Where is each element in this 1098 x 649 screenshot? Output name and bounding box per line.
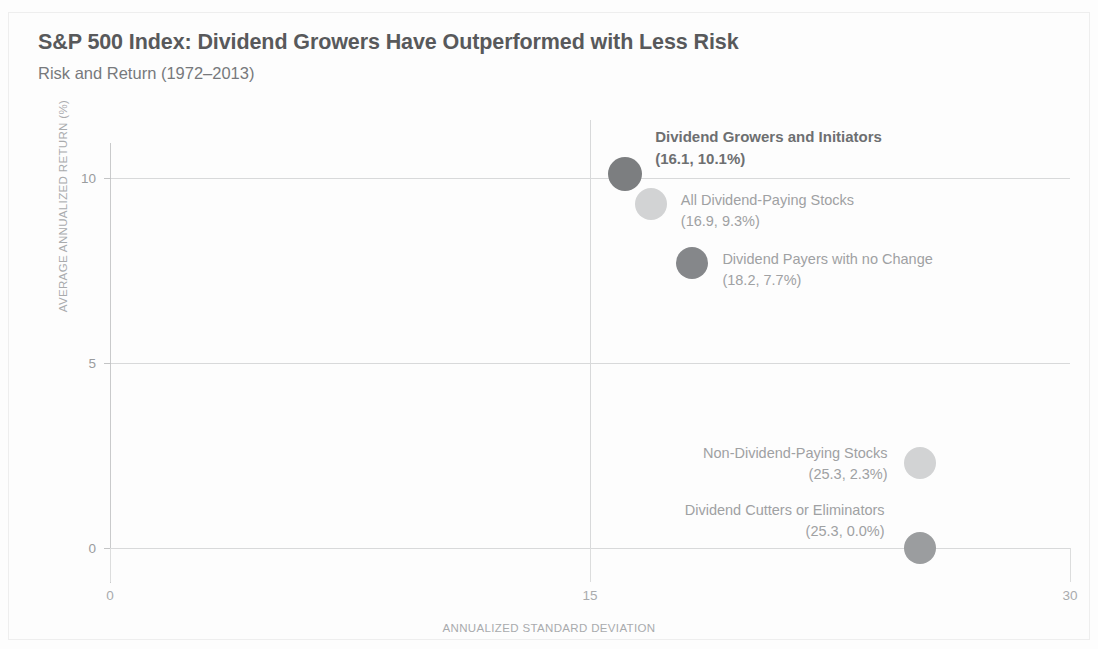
scatter-point	[635, 188, 667, 220]
point-annotation: Non-Dividend-Paying Stocks(25.3, 2.3%)	[703, 443, 888, 485]
y-tick-label: 5	[56, 356, 96, 371]
x-axis-title: ANNUALIZED STANDARD DEVIATION	[0, 622, 1098, 634]
x-tick-mark	[590, 548, 591, 582]
point-annotation: Dividend Growers and Initiators(16.1, 10…	[655, 126, 882, 170]
scatter-point	[676, 247, 708, 279]
scatter-point	[904, 532, 936, 564]
y-tick-label: 10	[56, 171, 96, 186]
x-tick-mark	[1070, 548, 1071, 582]
point-annotation-value: (18.2, 7.7%)	[722, 270, 932, 291]
point-annotation-value: (25.3, 2.3%)	[703, 464, 888, 485]
y-tick-mark	[104, 363, 111, 364]
x-tick-label: 30	[1062, 588, 1077, 603]
y-tick-label: 0	[56, 541, 96, 556]
point-annotation: Dividend Payers with no Change(18.2, 7.7…	[722, 249, 932, 291]
x-tick-mark	[110, 548, 111, 582]
point-annotation: Dividend Cutters or Eliminators(25.3, 0.…	[685, 500, 885, 542]
point-annotation-label: Dividend Cutters or Eliminators	[685, 502, 885, 518]
page-title: S&P 500 Index: Dividend Growers Have Out…	[38, 30, 739, 55]
chart-figure: S&P 500 Index: Dividend Growers Have Out…	[0, 0, 1098, 649]
y-axis-title: AVERAGE ANNUALIZED RETURN (%)	[57, 66, 69, 346]
point-annotation-label: Dividend Growers and Initiators	[655, 128, 882, 145]
point-annotation-value: (16.9, 9.3%)	[681, 211, 854, 232]
scatter-point	[608, 157, 642, 191]
chart-subtitle: Risk and Return (1972–2013)	[38, 64, 254, 83]
point-annotation-label: Dividend Payers with no Change	[722, 251, 932, 267]
point-annotation-value: (25.3, 0.0%)	[685, 521, 885, 542]
point-annotation-value: (16.1, 10.1%)	[655, 148, 882, 170]
scatter-point	[904, 447, 936, 479]
point-annotation-label: Non-Dividend-Paying Stocks	[703, 445, 888, 461]
point-annotation-label: All Dividend-Paying Stocks	[681, 192, 854, 208]
point-annotation: All Dividend-Paying Stocks(16.9, 9.3%)	[681, 190, 854, 232]
y-tick-mark	[104, 178, 111, 179]
gridline-vertical	[590, 120, 591, 548]
plot-area	[110, 120, 1070, 548]
x-tick-label: 15	[582, 588, 597, 603]
x-tick-label: 0	[106, 588, 114, 603]
